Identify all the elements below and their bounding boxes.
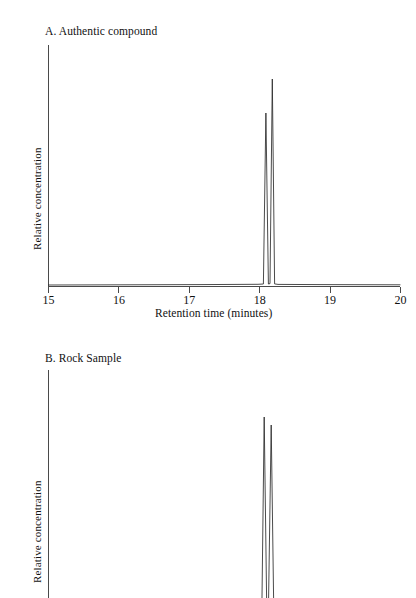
- panel-rock-sample: B. Rock Sample Relative concentration: [0, 340, 416, 598]
- panel-a-xtick-16: 16: [99, 293, 139, 308]
- panel-b-chromatogram-trace: [262, 417, 267, 598]
- panel-authentic-compound: A. Authentic compound Relative concentra…: [0, 0, 416, 340]
- panel-a-plot-area: [0, 0, 416, 340]
- panel-a-chromatogram-trace: [49, 79, 401, 285]
- panel-a-x-axis-label: Retention time (minutes): [155, 307, 272, 319]
- panel-a-xtick-18: 18: [240, 293, 280, 308]
- chromatogram-figure: A. Authentic compound Relative concentra…: [0, 0, 416, 598]
- panel-a-xtick-20: 20: [381, 293, 416, 308]
- panel-a-xtick-17: 17: [169, 293, 209, 308]
- panel-a-xtick-15: 15: [29, 293, 69, 308]
- panel-a-xtick-19: 19: [310, 293, 350, 308]
- panel-b-plot-area: [0, 340, 416, 598]
- panel-b-chromatogram-trace-second: [269, 425, 274, 598]
